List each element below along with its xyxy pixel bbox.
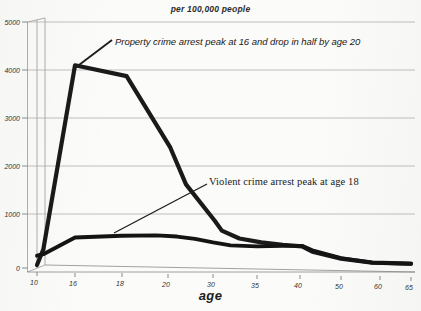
y-tick-label: 3000	[4, 115, 20, 122]
violent-annotation-text: Violent crime arrest peak at age 18	[209, 176, 359, 187]
x-axis-title: age	[0, 288, 421, 303]
x-tick-label: 18	[116, 280, 124, 287]
y-axis-labels: 5000 4000 3000 2000 1000 0	[3, 19, 20, 272]
property-annotation-text: Property crime arrest peak at 16 and dro…	[115, 36, 360, 47]
chart-page: per 100,000 people	[0, 0, 421, 311]
wall-top-edge	[28, 18, 46, 22]
y-tick-label: 1000	[4, 211, 20, 218]
x-tick-label: 10	[30, 279, 38, 286]
axis-floor-front	[45, 265, 415, 272]
y-tick-label: 2000	[3, 163, 20, 170]
axis-3d-wall	[28, 18, 46, 272]
x-axis-ticks	[37, 272, 411, 281]
y-tick-label: 4000	[4, 67, 20, 74]
y-tick-label: 0	[16, 265, 20, 272]
x-tick-label: 30	[207, 281, 215, 288]
violent-annotation-leader-line	[114, 184, 207, 233]
series-line-violent-crime	[37, 235, 411, 264]
property-annotation-leader-line	[75, 40, 112, 68]
x-tick-label: 16	[69, 280, 77, 287]
x-axis-line	[28, 265, 416, 272]
data-series-group	[37, 65, 411, 265]
y-axis-ticks	[22, 22, 28, 268]
y-tick-label: 5000	[4, 19, 20, 26]
x-tick-label: 20	[161, 281, 170, 288]
